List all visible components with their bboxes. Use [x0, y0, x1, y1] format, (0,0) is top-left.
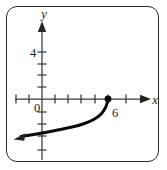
- y-axis-label: y: [39, 7, 47, 21]
- origin-label: 0: [34, 101, 40, 115]
- y-tick-label-4: 4: [30, 46, 37, 60]
- curve-left-arrowhead: [14, 133, 26, 141]
- x-axis-arrowhead: [140, 95, 151, 103]
- x-intercept-label: 6: [112, 106, 118, 120]
- y-axis-arrowhead: [38, 21, 46, 32]
- coordinate-plane: x y 0 4 6: [0, 0, 167, 170]
- curve-endpoint-dot: [105, 96, 112, 103]
- graph-figure: x y 0 4 6: [0, 0, 167, 170]
- x-axis-label: x: [151, 93, 158, 107]
